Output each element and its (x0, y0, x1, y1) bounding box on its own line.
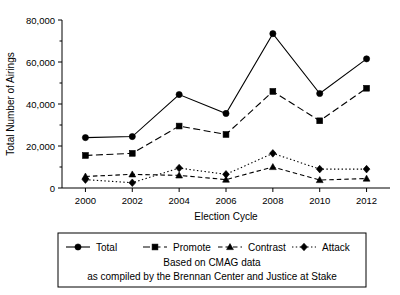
line-chart: 020,00040,00060,00080,000200020022004200… (0, 0, 400, 295)
data-point-total-2004 (176, 91, 182, 97)
data-point-attack-2008 (269, 150, 276, 158)
data-point-attack-2006 (223, 171, 230, 179)
data-point-contrast-2008 (269, 164, 276, 170)
data-point-promote-2004 (176, 123, 182, 129)
series-line-promote (85, 88, 366, 155)
data-point-attack-2012 (363, 165, 370, 173)
legend-label-contrast: Contrast (248, 242, 286, 253)
data-point-promote-2008 (270, 89, 276, 95)
data-point-total-2000 (82, 135, 88, 141)
data-point-total-2008 (270, 31, 276, 37)
y-tick-label: 40,000 (26, 99, 55, 110)
y-axis-ticks: 020,00040,00060,00080,000 (26, 15, 62, 194)
series-total (82, 31, 369, 141)
data-point-attack-2010 (316, 165, 323, 173)
data-point-attack-2002 (129, 179, 136, 187)
y-tick-label: 20,000 (26, 141, 55, 152)
data-point-promote-2010 (317, 118, 323, 124)
legend-marker-total (75, 244, 81, 250)
data-point-attack-2004 (176, 164, 183, 172)
data-point-promote-2006 (223, 132, 229, 138)
data-point-total-2006 (223, 110, 229, 116)
x-tick-label: 2004 (169, 195, 190, 206)
data-point-promote-2000 (83, 153, 89, 159)
x-tick-label: 2012 (356, 195, 377, 206)
x-tick-label: 2008 (262, 195, 283, 206)
legend: TotalPromoteContrastAttackBased on CMAG … (58, 233, 366, 287)
x-tick-label: 2002 (122, 195, 143, 206)
y-tick-label: 60,000 (26, 57, 55, 68)
y-axis-title: Total Number of Airings (5, 52, 16, 155)
caption-line-2: as compiled by the Brennan Center and Ju… (87, 271, 337, 282)
x-tick-label: 2000 (75, 195, 96, 206)
data-point-promote-2002 (129, 150, 135, 156)
data-point-contrast-2012 (363, 175, 370, 181)
legend-label-attack: Attack (322, 242, 351, 253)
x-tick-label: 2010 (309, 195, 330, 206)
legend-marker-promote (152, 244, 158, 250)
legend-label-promote: Promote (173, 242, 211, 253)
data-point-total-2010 (317, 90, 323, 96)
data-point-total-2012 (363, 56, 369, 62)
series-line-total (85, 34, 366, 138)
chart-figure: 020,00040,00060,00080,000200020022004200… (0, 0, 400, 295)
data-point-promote-2012 (364, 85, 370, 91)
x-axis-ticks: 2000200220042006200820102012 (75, 188, 377, 206)
y-tick-label: 80,000 (26, 15, 55, 26)
series-promote (83, 85, 370, 158)
y-tick-label: 0 (50, 183, 55, 194)
data-point-total-2002 (129, 133, 135, 139)
axes (62, 20, 390, 188)
x-tick-label: 2006 (215, 195, 236, 206)
x-axis-title: Election Cycle (194, 211, 258, 222)
caption-line-1: Based on CMAG data (163, 257, 261, 268)
legend-label-total: Total (96, 242, 117, 253)
